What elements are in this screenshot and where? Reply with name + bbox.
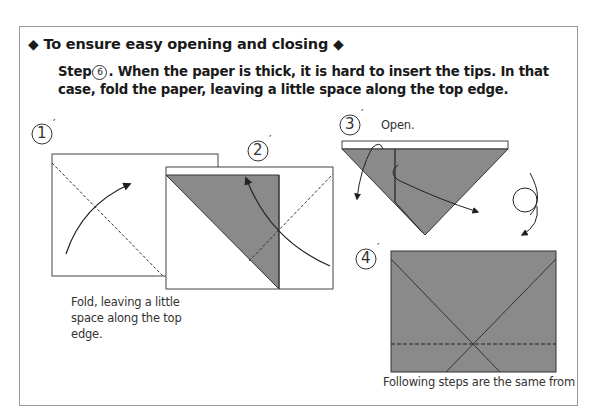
prime-mark: ′ (377, 241, 380, 254)
diagram-step-3 (340, 115, 538, 235)
caption-step-3: Open. (381, 117, 414, 133)
step-label-2: 2 (253, 141, 263, 159)
step-label-4: 4 (361, 249, 371, 267)
prime-mark: ′ (269, 133, 272, 146)
step-label-3: 3 (345, 115, 355, 133)
caption-step-4: Following steps are the same from (383, 374, 575, 390)
step-label-1: 1 (37, 124, 47, 142)
prime-mark: ′ (53, 117, 56, 130)
caption-step-1: Fold, leaving a little space along the t… (71, 294, 211, 342)
prime-mark: ′ (361, 107, 364, 120)
diagram-step-4 (356, 249, 556, 372)
